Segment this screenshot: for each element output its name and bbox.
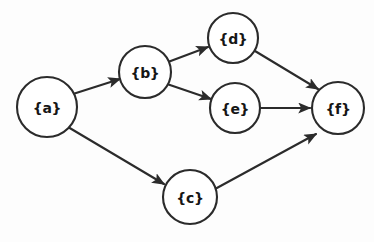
node-b-label: {b} [130,65,159,81]
node-c[interactable]: {c} [163,170,217,224]
node-e-label: {e} [221,101,250,117]
node-f[interactable]: {f} [312,82,364,134]
nodes-layer: {a} {b} {c} {d} {e} {f} [17,13,364,224]
node-a[interactable]: {a} [17,77,77,137]
node-f-label: {f} [325,101,350,117]
node-c-label: {c} [176,190,203,206]
edge-a-to-c [68,127,164,184]
node-b[interactable]: {b} [119,46,171,98]
edge-b-to-e [167,84,211,99]
edge-d-to-f [255,51,318,89]
edge-b-to-d [168,47,208,62]
edges-layer [68,47,318,189]
node-e[interactable]: {e} [210,83,260,133]
edge-a-to-b [73,79,120,94]
node-a-label: {a} [33,100,61,116]
graph-svg: {a} {b} {c} {d} {e} {f} [0,0,374,242]
edge-c-to-f [215,134,316,189]
node-d-label: {d} [218,31,247,47]
graph-diagram-canvas: {a} {b} {c} {d} {e} {f} [0,0,374,242]
node-d[interactable]: {d} [208,13,258,63]
